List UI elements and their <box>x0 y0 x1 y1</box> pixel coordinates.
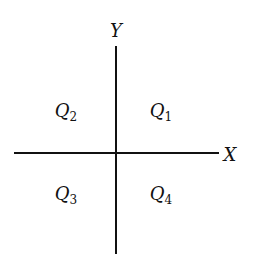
q-letter: Q <box>55 183 70 204</box>
quadrant-label-q4: Q4 <box>150 185 172 206</box>
q-subscript: 1 <box>165 110 173 124</box>
x-axis-line <box>14 152 219 154</box>
q-subscript: 3 <box>70 193 78 207</box>
q-subscript: 2 <box>70 110 78 124</box>
q-subscript: 4 <box>165 193 173 207</box>
quadrant-label-q2: Q2 <box>55 102 77 123</box>
y-axis-label: Y <box>110 22 122 40</box>
quadrant-label-q3: Q3 <box>55 185 77 206</box>
q-letter: Q <box>150 183 165 204</box>
x-axis-label: X <box>224 146 237 164</box>
quadrant-label-q1: Q1 <box>150 102 172 123</box>
q-letter: Q <box>150 100 165 121</box>
quadrant-diagram: Y X Q2 Q1 Q3 Q4 <box>0 0 255 254</box>
y-axis-line <box>115 46 117 254</box>
q-letter: Q <box>55 100 70 121</box>
